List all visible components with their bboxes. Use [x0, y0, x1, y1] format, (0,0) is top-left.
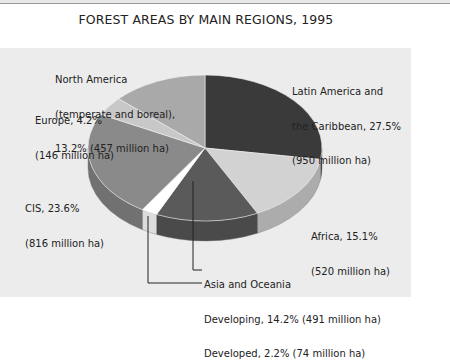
label-line: North America [55, 74, 175, 86]
label-europe: Europe, 4.2% (146 million ha) [35, 92, 114, 173]
label-line: (950 million ha) [292, 155, 401, 167]
label-cis: CIS, 23.6% (816 million ha) [25, 180, 104, 261]
label-line: Asia and Oceania [204, 279, 381, 291]
label-line: Africa, 15.1% [311, 231, 390, 243]
label-line: Europe, 4.2% [35, 115, 114, 127]
label-line: CIS, 23.6% [25, 203, 104, 215]
label-line: (146 million ha) [35, 150, 114, 162]
label-asia-developed: Developed, 2.2% (74 million ha) [204, 348, 381, 360]
label-line: Latin America and [292, 86, 401, 98]
label-asia-oceania: Asia and Oceania Developing, 14.2% (491 … [204, 256, 381, 363]
label-asia-developing: Developing, 14.2% (491 million ha) [204, 314, 381, 326]
label-latin-america: Latin America and the Caribbean, 27.5% (… [292, 63, 401, 178]
label-line: (816 million ha) [25, 238, 104, 250]
label-line: the Caribbean, 27.5% [292, 121, 401, 133]
